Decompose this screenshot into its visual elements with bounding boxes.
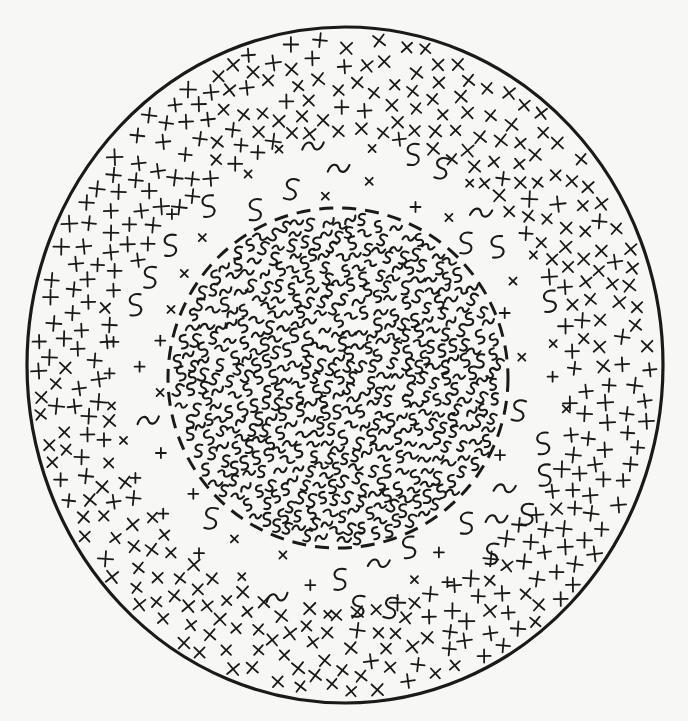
page-background xyxy=(0,0,688,721)
concentric-zone-diagram xyxy=(0,0,688,721)
